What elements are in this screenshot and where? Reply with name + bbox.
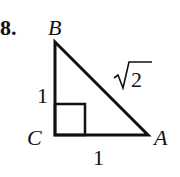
vertex-label-a: A: [152, 125, 168, 150]
side-label-bc: 1: [37, 83, 48, 108]
vertex-label-b: B: [48, 15, 61, 40]
problem-number: 8.: [0, 15, 17, 40]
side-label-ca: 1: [93, 145, 104, 170]
vertex-label-c: C: [27, 125, 42, 150]
sqrt-radicand: 2: [131, 67, 142, 92]
triangle-diagram: 8. B C A 1 1 2: [0, 0, 180, 177]
side-label-ab: 2: [114, 62, 152, 92]
right-angle-marker: [55, 104, 85, 135]
